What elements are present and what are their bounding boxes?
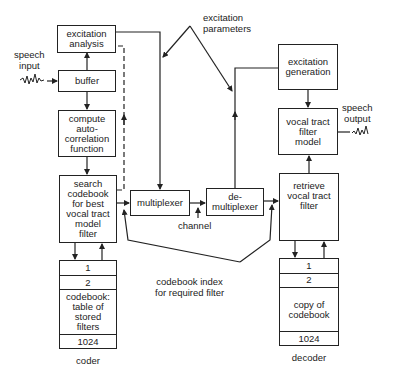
retrieve-filter-block: retrieve vocal tract filter (279, 173, 339, 241)
retrieve-filter-label: retrieve vocal tract filter (287, 181, 330, 211)
codebook-index-label: codebook index for required filter (155, 277, 224, 298)
excitation-generation-block: excitation generation (278, 44, 338, 90)
buffer-block: buffer (58, 70, 116, 92)
decoder-codebook-row-1024: 1024 (280, 332, 338, 345)
speech-output-label: speech output (342, 103, 373, 124)
codebook-row-1: 1 (60, 261, 116, 276)
speech-input-waveform-icon (20, 74, 44, 84)
speech-output-waveform-icon (352, 126, 368, 135)
search-codebook-block: search codebook for best vocal tract mod… (59, 175, 117, 243)
coder-codebook-table: 1 2 codebook: table of stored filters 10… (59, 260, 117, 349)
codebook-row-1024: 1024 (60, 335, 116, 348)
vocal-tract-filter-block: vocal tract filter model (278, 108, 338, 155)
autocorrelation-label: compute auto- correlation function (65, 114, 109, 154)
decoder-codebook-description: copy of codebook (280, 288, 338, 332)
decoder-codebook-table: 1 2 copy of codebook 1024 (279, 258, 339, 346)
decoder-label: decoder (279, 353, 339, 364)
demultiplexer-label: de- multiplexer (212, 192, 258, 212)
search-codebook-label: search codebook for best vocal tract mod… (66, 179, 109, 239)
channel-label: channel (178, 221, 211, 232)
speech-input-label: speech input (14, 50, 45, 71)
excitation-generation-label: excitation generation (286, 57, 331, 77)
coder-label: coder (59, 356, 117, 367)
multiplexer-block: multiplexer (130, 190, 190, 216)
excitation-analysis-label: excitation analysis (66, 29, 106, 49)
excitation-analysis-block: excitation analysis (57, 25, 116, 53)
codebook-row-2: 2 (60, 276, 116, 291)
buffer-label: buffer (75, 76, 99, 86)
decoder-codebook-row-2: 2 (280, 274, 338, 289)
decoder-codebook-row-1: 1 (280, 259, 338, 274)
codebook-table-description: codebook: table of stored filters (60, 290, 116, 335)
demultiplexer-block: de- multiplexer (206, 188, 264, 216)
autocorrelation-block: compute auto- correlation function (58, 110, 116, 157)
excitation-parameters-label: excitation parameters (203, 13, 251, 34)
multiplexer-label: multiplexer (137, 198, 183, 208)
vocal-tract-filter-label: vocal tract filter model (286, 117, 329, 147)
